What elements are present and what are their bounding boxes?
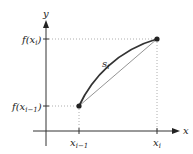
- point-end: [154, 36, 159, 41]
- tick-label-fxim1: f(xi−1): [11, 101, 42, 114]
- tick-label-xim1: xi−1: [70, 137, 88, 150]
- tick-label-fxi: f(xi): [21, 34, 42, 47]
- chord: [79, 39, 157, 106]
- y-axis-arrow-icon: [43, 20, 49, 28]
- point-start: [76, 103, 81, 108]
- x-axis-arrow-icon: [172, 128, 180, 134]
- x-axis-label: x: [183, 125, 189, 136]
- arc-length-diagram: y x f(xi) f(xi−1) xi−1 xi si: [0, 0, 193, 154]
- y-axis-label: y: [42, 8, 49, 19]
- tick-label-xi: xi: [153, 137, 161, 150]
